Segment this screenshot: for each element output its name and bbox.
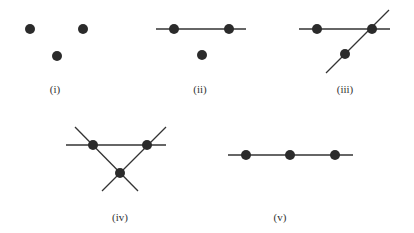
point xyxy=(224,24,234,34)
panel-label: (ii) xyxy=(193,83,207,96)
panel-label: (iv) xyxy=(112,211,128,224)
panel-ii: (ii) xyxy=(156,24,246,96)
point xyxy=(197,50,207,60)
panel-label: (v) xyxy=(274,211,287,224)
panel-iii: (iii) xyxy=(299,10,390,96)
panel-label: (iii) xyxy=(337,83,354,96)
line xyxy=(326,10,389,73)
point xyxy=(285,150,295,160)
panel-label: (i) xyxy=(50,83,61,96)
point xyxy=(88,140,98,150)
point xyxy=(78,24,88,34)
panel-i: (i) xyxy=(25,24,88,96)
point xyxy=(241,150,251,160)
line xyxy=(75,127,138,191)
point xyxy=(25,24,35,34)
line xyxy=(102,127,166,191)
point xyxy=(142,140,152,150)
point xyxy=(115,168,125,178)
point xyxy=(330,150,340,160)
point xyxy=(340,49,350,59)
point xyxy=(52,51,62,61)
point xyxy=(312,24,322,34)
panel-v: (v) xyxy=(228,150,353,224)
point xyxy=(367,24,377,34)
panel-iv: (iv) xyxy=(66,127,166,224)
point xyxy=(169,24,179,34)
figure-canvas: (i) (ii) (iii) (iv) (v) xyxy=(0,0,414,233)
